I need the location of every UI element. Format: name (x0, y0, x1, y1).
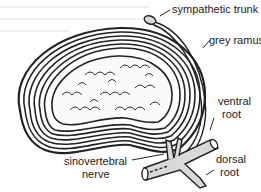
label-ventral-root-1: ventral (218, 95, 251, 107)
label-ventral-root-2: root (222, 108, 241, 120)
label-sinovertebral-nerve-1: sinovertebral (64, 155, 127, 167)
label-sympathetic-trunk: sympathetic trunk (172, 3, 258, 15)
label-dorsal-root-1: dorsal (216, 153, 246, 165)
label-grey-ramus: grey ramus (209, 34, 261, 46)
nucleus-pulposus (52, 56, 172, 125)
label-sinovertebral-nerve-2: nerve (82, 168, 110, 180)
label-dorsal-root-2: root (220, 166, 239, 178)
spinal-nerve (142, 138, 219, 188)
disc-innervation-diagram: sympathetic trunk grey ramus ventral roo… (0, 0, 261, 192)
